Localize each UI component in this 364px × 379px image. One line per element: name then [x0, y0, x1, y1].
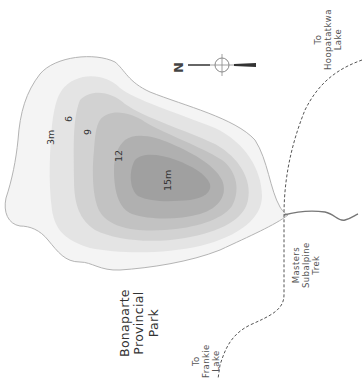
depth-label-3m: 3m — [46, 130, 57, 145]
depth-label-12m: 12 — [114, 150, 125, 162]
hoopatatkwa-lake-label: To Hoopatatkwa Lake — [314, 9, 343, 70]
lake-map — [0, 0, 364, 379]
compass-icon — [188, 54, 256, 76]
masters-subalpine-trek-label: Masters Subalpine Trek — [292, 242, 321, 288]
depth-label-9m: 9 — [83, 129, 94, 135]
outlet-stream — [284, 211, 358, 220]
north-label: N — [172, 62, 187, 73]
frankie-lake-label: To Frankie Lake — [192, 344, 221, 378]
park-label: Bonaparte Provincial Park — [118, 289, 161, 357]
depth-label-15m: 15m — [163, 170, 174, 191]
depth-label-6m: 6 — [64, 116, 75, 122]
